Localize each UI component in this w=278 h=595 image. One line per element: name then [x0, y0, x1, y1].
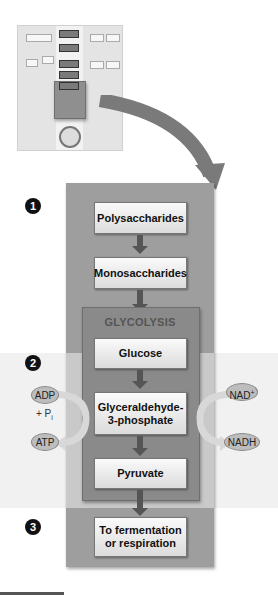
fate-label-line2: or respiration [105, 537, 176, 550]
atp-oval: ATP [31, 433, 59, 451]
fate-label-line1: To fermentation [99, 524, 181, 537]
g3p-box: Glyceraldehyde- 3-phosphate [94, 392, 187, 435]
monosaccharides-label: Monosaccharides [94, 267, 187, 280]
polysaccharides-box: Polysaccharides [94, 202, 187, 234]
glucose-box: Glucose [94, 338, 187, 369]
pyruvate-box: Pyruvate [94, 458, 187, 489]
fate-box: To fermentation or respiration [94, 517, 187, 557]
g3p-label-line2: 3-phosphate [108, 414, 173, 427]
glycolysis-title: GLYCOLYSIS [82, 316, 198, 328]
step-1-badge: 1 [25, 198, 41, 214]
nadh-oval: NADH [224, 433, 260, 451]
glucose-label: Glucose [119, 347, 162, 360]
g3p-label-line1: Glyceraldehyde- [98, 401, 184, 414]
pyruvate-label: Pyruvate [117, 467, 163, 480]
phosphate-label: + Pi [36, 408, 53, 421]
step-2-badge: 2 [25, 355, 41, 371]
curved-arrow-icon [80, 95, 230, 195]
arrow-down-icon [137, 290, 143, 305]
adp-oval: ADP [31, 386, 59, 404]
arrow-down-icon [137, 235, 143, 247]
arrow-down-icon [137, 436, 143, 449]
arrow-down-icon [137, 370, 143, 382]
polysaccharides-label: Polysaccharides [97, 212, 184, 225]
monosaccharides-box: Monosaccharides [94, 257, 187, 289]
arrow-down-icon [137, 490, 143, 509]
nad-plus-oval: NAD+ [226, 383, 258, 401]
step-3-badge: 3 [25, 519, 41, 535]
